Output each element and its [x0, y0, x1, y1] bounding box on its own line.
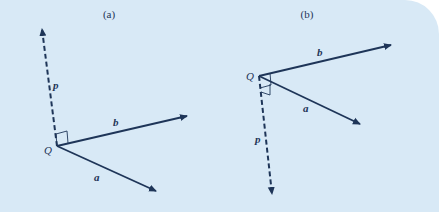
vector-a-a — [57, 146, 156, 191]
vector-a-b — [259, 76, 360, 124]
panel-b: (b) b a p Q — [246, 8, 391, 194]
label-p-b: p — [254, 133, 261, 145]
label-p-a: p — [52, 79, 59, 91]
panel-a: (a) p b a Q — [42, 8, 187, 191]
label-a-a: a — [94, 171, 100, 183]
label-b-b: b — [317, 46, 323, 58]
right-angle-marker-a — [56, 131, 68, 143]
vector-b-b — [259, 45, 391, 76]
label-b-a: b — [113, 116, 119, 128]
vector-b-a — [57, 116, 187, 146]
origin-label-b: Q — [246, 70, 254, 82]
vector-diagram: (a) p b a Q (b) b a p Q — [0, 0, 439, 212]
caption-a: (a) — [103, 8, 116, 21]
origin-label-a: Q — [44, 144, 52, 156]
label-a-b: a — [303, 102, 309, 114]
caption-b: (b) — [301, 8, 314, 21]
